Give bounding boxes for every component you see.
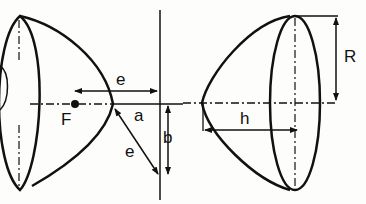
e-label-top: e xyxy=(116,70,125,89)
e-label-diagonal: e xyxy=(125,142,134,161)
focus-point xyxy=(71,100,79,108)
right-paraboloid xyxy=(183,16,338,190)
b-label: b xyxy=(163,128,172,147)
paraboloid-diagram: F e a b e R h xyxy=(0,0,366,204)
a-label: a xyxy=(134,106,144,125)
focus-label: F xyxy=(61,110,71,129)
left-base-ellipse xyxy=(0,16,40,190)
radius-label: R xyxy=(344,47,356,66)
diagram-svg: F e a b e R h xyxy=(0,0,366,204)
left-paraboloid xyxy=(0,10,183,200)
height-label: h xyxy=(240,109,249,128)
